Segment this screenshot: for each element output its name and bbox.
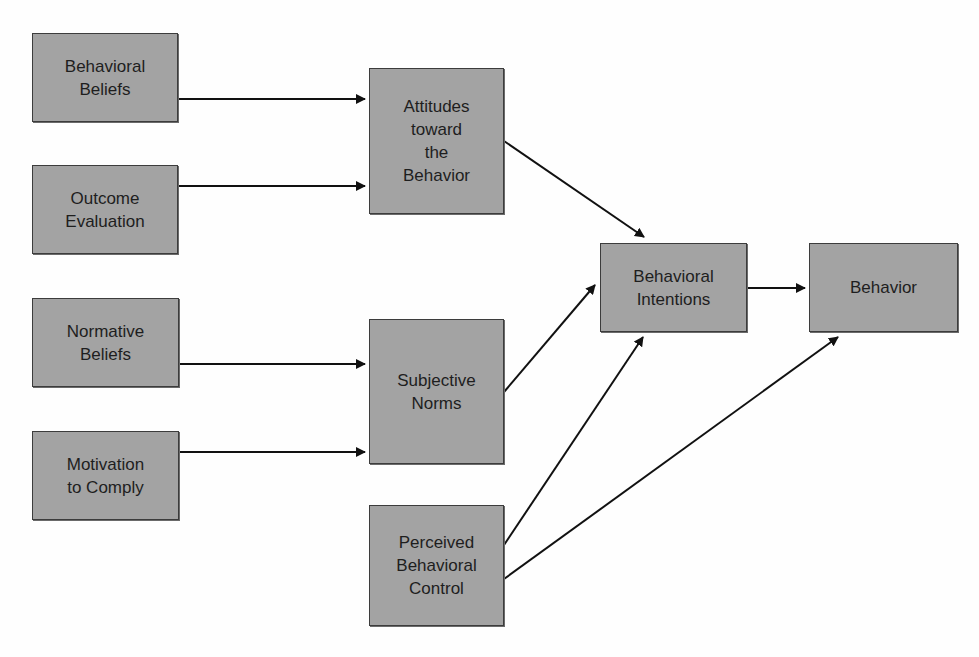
node-perceived-behavioral-control: Perceived Behavioral Control — [369, 505, 504, 626]
node-behavioral-beliefs: Behavioral Beliefs — [32, 33, 178, 122]
node-outcome-evaluation: Outcome Evaluation — [32, 165, 178, 254]
node-subjective-norms: Subjective Norms — [369, 319, 504, 464]
node-behavior: Behavior — [809, 243, 958, 332]
node-attitudes-toward-behavior: Attitudes toward the Behavior — [369, 68, 504, 214]
arrow-subjective-norms-to-behavioral-intentions — [504, 285, 595, 392]
arrow-perceived-control-to-behavior — [504, 337, 838, 579]
node-normative-beliefs: Normative Beliefs — [32, 298, 179, 387]
node-behavioral-intentions: Behavioral Intentions — [600, 243, 747, 332]
node-motivation-to-comply: Motivation to Comply — [32, 431, 179, 520]
arrow-attitudes-to-behavioral-intentions — [504, 141, 644, 237]
tpb-diagram: Behavioral Beliefs Outcome Evaluation No… — [0, 0, 979, 657]
